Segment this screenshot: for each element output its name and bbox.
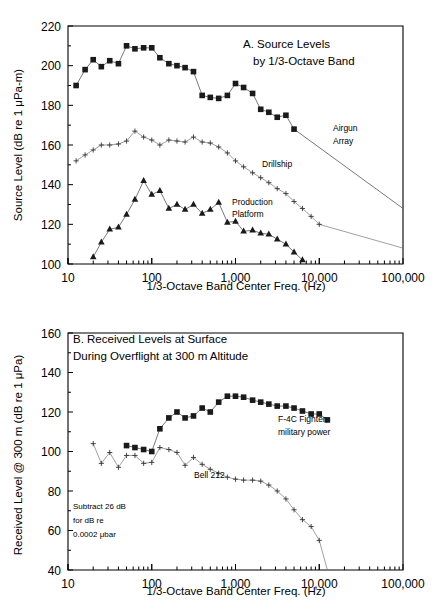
y-tick-label: 80 [48, 485, 62, 499]
data-marker-square [274, 403, 280, 409]
data-marker-triangle [182, 206, 189, 212]
y-tick-label: 100 [41, 445, 61, 459]
data-marker-triangle [274, 235, 281, 241]
data-marker-triangle [291, 248, 298, 254]
y-tick-label: 160 [41, 139, 61, 153]
data-marker-plus [149, 137, 154, 142]
data-marker-square [258, 107, 264, 113]
data-marker-plus [74, 158, 79, 163]
data-marker-plus [124, 453, 129, 458]
y-tick-label: 160 [41, 327, 61, 341]
data-marker-plus [157, 142, 162, 147]
chart-panel-b: 406080100120140160 101001,00010,000100,0… [0, 305, 441, 611]
series-line [93, 181, 302, 260]
data-marker-square [124, 43, 130, 49]
data-marker-plus [91, 441, 96, 446]
panel-a-data-series [73, 43, 403, 262]
data-marker-square [258, 399, 264, 405]
panel-a-x-axis-title: 1/3-Octave Band Center Freq. (Hz) [147, 280, 326, 292]
x-tick-label: 10 [61, 577, 75, 591]
data-marker-triangle [157, 187, 164, 193]
data-marker-square [199, 405, 205, 411]
data-marker-square [241, 394, 247, 400]
data-marker-plus [99, 142, 104, 147]
panel-b-y-axis-title: Received Level @ 300 m (dB re 1 μPa) [12, 355, 24, 556]
data-marker-square [207, 95, 213, 101]
panel-a-title-line2: by 1/3-Octave Band [253, 55, 355, 67]
data-marker-plus [116, 465, 121, 470]
series-2 [74, 129, 403, 249]
data-marker-plus [149, 460, 154, 465]
y-tick-label: 100 [41, 258, 61, 272]
panel-b-x-axis-title: 1/3-Octave Band Center Freq. (Hz) [147, 585, 326, 597]
data-marker-triangle [224, 219, 231, 225]
data-marker-triangle [215, 199, 222, 205]
x-tick-label: 10 [61, 271, 75, 285]
data-marker-square [182, 415, 188, 421]
data-marker-plus [275, 186, 280, 191]
y-tick-label: 200 [41, 59, 61, 73]
series-label-production-line1: Production [232, 197, 273, 207]
panel-b-title-line1: B. Received Levels at Surface [73, 333, 227, 345]
series-line [93, 444, 327, 570]
data-marker-plus [266, 482, 271, 487]
series-label-production-line2: Platform [232, 209, 264, 219]
data-marker-plus [266, 180, 271, 185]
data-marker-square [274, 114, 280, 120]
data-marker-square [266, 401, 272, 407]
data-marker-triangle [283, 240, 290, 246]
data-marker-plus [317, 538, 322, 543]
data-marker-square [157, 426, 163, 432]
data-marker-triangle [190, 201, 197, 207]
panel-a-title-line1: A. Source Levels [243, 38, 330, 50]
data-marker-triangle [299, 256, 306, 262]
data-marker-square [82, 67, 88, 73]
data-marker-square [266, 109, 272, 115]
data-marker-plus [91, 147, 96, 152]
data-marker-triangle [140, 177, 147, 183]
data-marker-square [149, 45, 155, 51]
data-marker-square [149, 449, 155, 455]
chart-panel-a: 100120140160180200220 101001,00010,00010… [0, 0, 441, 305]
series-label-airgun-line1: Airgun [333, 123, 358, 133]
data-marker-square [191, 413, 197, 419]
data-marker-plus [200, 139, 205, 144]
series-label-f4c-line2: military power [278, 427, 331, 437]
data-marker-square [132, 445, 138, 451]
data-marker-square [225, 393, 231, 399]
data-marker-square [166, 61, 172, 67]
data-marker-square [90, 57, 96, 63]
data-marker-square [283, 403, 289, 409]
data-marker-plus [174, 138, 179, 143]
data-marker-plus [166, 447, 171, 452]
data-marker-square [124, 443, 130, 449]
data-marker-plus [241, 478, 246, 483]
series-line [76, 131, 319, 224]
data-marker-triangle [123, 211, 130, 217]
data-marker-plus [250, 170, 255, 175]
panel-b-note-line2: for dB re [73, 516, 104, 525]
x-tick-label: 100,000 [381, 577, 425, 591]
data-marker-plus [82, 152, 87, 157]
x-tick-label: 100,000 [381, 271, 425, 285]
data-marker-square [157, 55, 163, 61]
figure-root: 100120140160180200220 101001,00010,00010… [0, 0, 441, 611]
panel-b-note-line3: 0.0002 μbar [73, 530, 116, 539]
data-marker-triangle [132, 196, 139, 202]
data-marker-square [283, 112, 289, 118]
data-marker-square [73, 83, 79, 89]
data-marker-triangle [115, 224, 122, 230]
panel-b-svg: 406080100120140160 101001,00010,000100,0… [0, 305, 441, 611]
series-label-airgun-line2: Array [333, 136, 354, 146]
data-marker-plus [216, 144, 221, 149]
data-marker-square [174, 63, 180, 69]
data-marker-plus [241, 164, 246, 169]
data-marker-triangle [266, 231, 273, 237]
data-marker-plus [116, 141, 121, 146]
data-marker-plus [107, 142, 112, 147]
y-tick-label: 220 [41, 20, 61, 34]
data-marker-triangle [90, 253, 97, 259]
data-marker-plus [191, 134, 196, 139]
data-marker-square [141, 447, 147, 453]
panel-a-y-axis-title: Source Level (dB re 1 μPa-m) [12, 69, 24, 222]
